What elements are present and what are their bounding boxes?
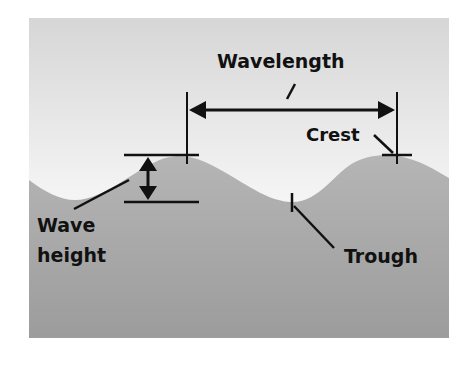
crest-label: Crest (306, 124, 360, 145)
wavelength-label: Wavelength (217, 50, 345, 72)
wave-diagram: Wavelength Crest Wave height Trough (0, 0, 474, 366)
wave-height-label-line2: height (37, 244, 106, 266)
wave-height-label-line1: Wave (37, 214, 95, 236)
trough-label: Trough (344, 245, 418, 267)
